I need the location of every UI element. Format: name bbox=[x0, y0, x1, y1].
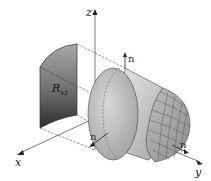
x-axis-label: x bbox=[15, 156, 22, 169]
y-axis-label: y bbox=[194, 166, 202, 179]
region-rxz: Rxz bbox=[40, 44, 77, 128]
z-axis-label: z bbox=[85, 6, 92, 19]
x-axis: x bbox=[15, 118, 95, 169]
normal-top-label: n bbox=[128, 53, 135, 64]
normal-right-label: n bbox=[180, 139, 187, 150]
normal-front-label: n bbox=[90, 131, 97, 142]
normal-top: n bbox=[123, 52, 135, 68]
diagram-canvas: z x y Rxz bbox=[0, 0, 211, 181]
